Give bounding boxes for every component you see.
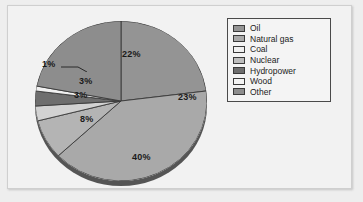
slice-label-wood: 1%	[42, 59, 55, 69]
figure-root: 22% 23% 40% 8% 3% 3% 1% OilNatural gasCo…	[0, 0, 363, 202]
pie-graphic: 22% 23% 40% 8% 3% 3% 1%	[32, 14, 210, 192]
legend-swatch-icon	[233, 57, 245, 64]
legend-label: Hydropower	[250, 66, 296, 76]
slice-label-hydropower: 3%	[74, 90, 87, 100]
chart-legend: OilNatural gasCoalNuclearHydropowerWoodO…	[227, 18, 331, 102]
legend-swatch-icon	[233, 78, 245, 85]
legend-swatch-icon	[233, 67, 245, 74]
legend-label: Coal	[250, 44, 267, 54]
legend-item: Other	[233, 87, 325, 98]
legend-item: Natural gas	[233, 34, 325, 45]
legend-label: Nuclear	[250, 55, 279, 65]
pie-slice-oil	[121, 21, 206, 101]
legend-item: Wood	[233, 76, 325, 87]
legend-label: Other	[250, 87, 271, 97]
legend-swatch-icon	[233, 46, 245, 53]
legend-label: Wood	[250, 76, 272, 86]
legend-label: Oil	[250, 23, 260, 33]
slice-label-other: 22%	[122, 49, 141, 59]
legend-label: Natural gas	[250, 34, 293, 44]
legend-swatch-icon	[233, 88, 245, 95]
legend-swatch-icon	[233, 35, 245, 42]
legend-item: Hydropower	[233, 65, 325, 76]
slice-label-oil: 23%	[178, 92, 197, 102]
slice-label-nuclear: 3%	[79, 76, 92, 86]
slice-label-coal: 8%	[80, 114, 93, 124]
legend-item: Nuclear	[233, 55, 325, 66]
wood-leader-line	[61, 65, 87, 72]
legend-swatch-icon	[233, 25, 245, 32]
slice-label-natural-gas: 40%	[132, 152, 151, 162]
legend-item: Coal	[233, 44, 325, 55]
figure-frame: 22% 23% 40% 8% 3% 3% 1% OilNatural gasCo…	[7, 5, 352, 189]
legend-item: Oil	[233, 23, 325, 34]
pie-chart: 22% 23% 40% 8% 3% 3% 1% OilNatural gasCo…	[8, 6, 351, 188]
